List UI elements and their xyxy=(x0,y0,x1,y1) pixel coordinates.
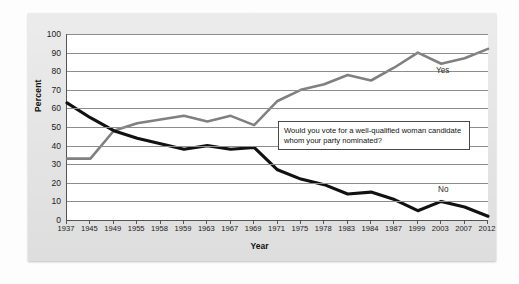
series-label-no: No xyxy=(438,185,448,194)
gridline xyxy=(67,201,488,202)
gridline xyxy=(67,53,488,54)
x-tick-label: 1987 xyxy=(385,224,402,233)
x-tick-label: 1945 xyxy=(81,224,98,233)
x-tick-label: 1955 xyxy=(128,224,145,233)
x-tick-label: 1958 xyxy=(151,224,168,233)
y-tick-label: 70 xyxy=(40,85,61,95)
x-tick-label: 1963 xyxy=(198,224,215,233)
x-tick-label: 1937 xyxy=(58,224,75,233)
gridline xyxy=(67,90,488,91)
y-tick-label: 80 xyxy=(40,66,61,76)
x-tick-label: 1999 xyxy=(408,224,425,233)
y-tick-label: 10 xyxy=(40,196,61,206)
x-axis-title: Year xyxy=(0,241,519,251)
gridline xyxy=(67,183,488,184)
series-label-yes: Yes xyxy=(436,66,449,75)
series-line-no xyxy=(67,103,488,216)
x-tick-label: 1983 xyxy=(338,224,355,233)
y-tick-label: 90 xyxy=(40,48,61,58)
x-tick-label: 1949 xyxy=(104,224,121,233)
x-tick-label: 1967 xyxy=(221,224,238,233)
x-tick-label: 1969 xyxy=(245,224,262,233)
x-tick-label: 1971 xyxy=(268,224,285,233)
x-tick-label: 2012 xyxy=(479,224,496,233)
x-tick-label: 1984 xyxy=(362,224,379,233)
x-tick-label: 1978 xyxy=(315,224,332,233)
x-tick-label: 1975 xyxy=(291,224,308,233)
gridline xyxy=(67,164,488,165)
question-annotation-box: Would you vote for a well-qualified woma… xyxy=(278,121,470,150)
y-tick-label: 40 xyxy=(40,141,61,151)
y-tick-label: 60 xyxy=(40,103,61,113)
y-tick-label: 100 xyxy=(40,29,61,39)
y-tick-label: 30 xyxy=(40,159,61,169)
y-tick-label: 50 xyxy=(40,122,61,132)
chart-figure: Percent 0102030405060708090100 193719451… xyxy=(0,0,519,284)
gridline xyxy=(67,71,488,72)
x-tick-label: 2007 xyxy=(455,224,472,233)
gridline xyxy=(67,34,488,35)
x-tick-label: 2003 xyxy=(432,224,449,233)
x-tick-label: 1959 xyxy=(174,224,191,233)
y-tick-label: 20 xyxy=(40,178,61,188)
gridline xyxy=(67,108,488,109)
